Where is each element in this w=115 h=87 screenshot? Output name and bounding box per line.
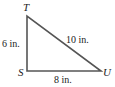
vertex-label-s: S [18,66,24,78]
side-label-ts: 6 in. [2,38,20,49]
vertex-label-t: T [23,1,30,13]
side-label-tu: 10 in. [66,34,89,45]
triangle-diagram: T S U 6 in. 10 in. 8 in. [0,0,115,87]
triangle-tsu [27,16,101,71]
vertex-label-u: U [103,66,112,78]
side-label-su: 8 in. [54,74,72,85]
